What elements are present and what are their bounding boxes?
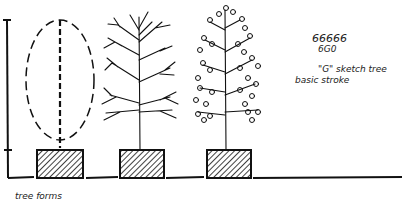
annotations: 66666 6G0 "G" sketch tree basic stroke (295, 32, 387, 85)
annotation-basic-stroke: basic stroke (295, 75, 350, 85)
diagram-title: tree forms (15, 191, 62, 201)
annotation-g-row-2: 6G0 (318, 44, 337, 54)
tree-leafed (194, 6, 261, 179)
annotation-sketch-tree: "G" sketch tree (318, 64, 387, 74)
height-scale-bar (3, 20, 12, 178)
planter-box (207, 150, 251, 178)
planter-box (37, 150, 83, 178)
tree-outline-form (26, 20, 94, 178)
tree-forms-sketch: 66666 6G0 "G" sketch tree basic stroke t… (0, 0, 404, 201)
planter-box (120, 150, 164, 178)
tree-branch-structure (102, 12, 178, 178)
leaf-strokes (194, 6, 261, 123)
